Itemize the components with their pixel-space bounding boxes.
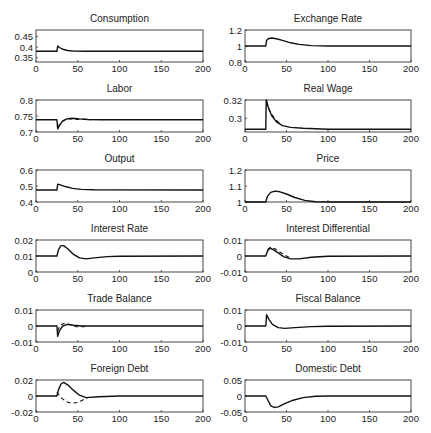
solid-series-line [245, 100, 411, 129]
x-tick-label: 200 [403, 273, 419, 284]
y-tick-label: 0.8 [20, 95, 33, 106]
x-tick-label: 50 [281, 343, 292, 354]
subplot-real-wage: Real Wage0501001502000.30.32 [224, 83, 419, 144]
x-tick-label: 200 [403, 413, 419, 424]
x-tick-label: 150 [153, 343, 169, 354]
y-tick-label: 1.2 [229, 25, 242, 36]
x-tick-label: 100 [112, 413, 128, 424]
subplot-title: Consumption [90, 13, 149, 24]
subplot-title: Trade Balance [87, 293, 152, 304]
solid-series-line [36, 184, 203, 190]
x-tick-label: 50 [281, 273, 292, 284]
x-tick-label: 0 [242, 63, 247, 74]
y-tick-label: 0.5 [20, 181, 33, 192]
subplot-title: Exchange Rate [294, 13, 363, 24]
y-tick-label: 1.1 [229, 181, 242, 192]
x-tick-label: 150 [153, 133, 169, 144]
y-tick-label: 0 [237, 321, 242, 332]
y-tick-label: 1 [237, 197, 242, 208]
x-tick-label: 100 [112, 273, 128, 284]
y-tick-label: 0 [237, 251, 242, 262]
solid-series-line [36, 382, 203, 397]
subplot-output: Output0501001502000.40.50.6 [20, 153, 211, 214]
x-tick-label: 0 [33, 203, 38, 214]
x-tick-label: 100 [320, 133, 336, 144]
plot-frame [245, 100, 411, 132]
solid-series-line [36, 118, 203, 129]
x-tick-label: 150 [362, 203, 378, 214]
solid-series-line [245, 38, 411, 46]
subplot-title: Price [317, 153, 340, 164]
y-tick-label: 1 [237, 41, 242, 52]
subplot-title: Foreign Debt [91, 363, 149, 374]
x-tick-label: 200 [195, 273, 211, 284]
x-tick-label: 50 [72, 63, 83, 74]
x-tick-label: 200 [195, 133, 211, 144]
y-tick-label: 0.6 [20, 165, 33, 176]
x-tick-label: 100 [320, 203, 336, 214]
solid-series-line [245, 248, 411, 259]
y-tick-label: 0.01 [224, 305, 243, 316]
plot-frame [36, 170, 203, 202]
x-tick-label: 50 [281, 63, 292, 74]
y-tick-label: -0.01 [220, 337, 242, 348]
x-tick-label: 0 [33, 63, 38, 74]
x-tick-label: 50 [72, 133, 83, 144]
x-tick-label: 100 [320, 273, 336, 284]
x-tick-label: 50 [72, 203, 83, 214]
x-tick-label: 200 [195, 203, 211, 214]
subplot-price: Price05010015020011.11.2 [229, 153, 419, 214]
x-tick-label: 100 [112, 133, 128, 144]
subplot-title: Output [104, 153, 134, 164]
y-tick-label: 0 [28, 391, 33, 402]
solid-series-line [36, 324, 203, 336]
y-tick-label: 0.32 [224, 95, 243, 106]
y-tick-label: 0.4 [20, 197, 33, 208]
x-tick-label: 150 [362, 63, 378, 74]
y-tick-label: 0 [28, 267, 33, 278]
y-tick-label: -0.01 [11, 337, 33, 348]
x-tick-label: 0 [33, 273, 38, 284]
subplot-consumption: Consumption0501001502000.350.40.45 [15, 13, 211, 74]
x-tick-label: 200 [403, 343, 419, 354]
x-tick-label: 50 [281, 203, 292, 214]
y-tick-label: 0 [237, 391, 242, 402]
y-tick-label: 0.01 [15, 251, 34, 262]
x-tick-label: 150 [153, 413, 169, 424]
x-tick-label: 150 [362, 273, 378, 284]
y-tick-label: 0.02 [15, 375, 34, 386]
x-tick-label: 50 [72, 413, 83, 424]
subplot-title: Domestic Debt [295, 363, 361, 374]
x-tick-label: 200 [195, 63, 211, 74]
x-tick-label: 0 [33, 133, 38, 144]
dashed-series-line [57, 392, 88, 403]
x-tick-label: 0 [242, 133, 247, 144]
x-tick-label: 0 [242, 413, 247, 424]
y-tick-label: 0.05 [224, 375, 243, 386]
y-tick-label: 1.2 [229, 165, 242, 176]
y-tick-label: 0.01 [224, 235, 243, 246]
x-tick-label: 100 [320, 413, 336, 424]
y-tick-label: 0.45 [15, 31, 34, 42]
x-tick-label: 0 [33, 413, 38, 424]
solid-series-line [36, 246, 203, 259]
subplot-title: Labor [107, 83, 133, 94]
x-tick-label: 150 [153, 273, 169, 284]
subplot-interest-differential: Interest Differential050100150200-0.0100… [220, 223, 419, 284]
x-tick-label: 0 [33, 343, 38, 354]
y-tick-label: 0.01 [15, 305, 34, 316]
y-tick-label: 0.4 [20, 42, 33, 53]
x-tick-label: 100 [112, 203, 128, 214]
x-tick-label: 0 [242, 343, 247, 354]
x-tick-label: 50 [281, 413, 292, 424]
subplot-domestic-debt: Domestic Debt050100150200-0.0500.05 [220, 363, 419, 424]
x-tick-label: 150 [153, 203, 169, 214]
y-tick-label: -0.02 [11, 407, 33, 418]
x-tick-label: 100 [320, 343, 336, 354]
solid-series-line [36, 46, 203, 51]
plot-frame [36, 100, 203, 132]
x-tick-label: 0 [242, 203, 247, 214]
y-tick-label: 0.7 [20, 127, 33, 138]
x-tick-label: 50 [281, 133, 292, 144]
subplot-title: Interest Rate [91, 223, 149, 234]
